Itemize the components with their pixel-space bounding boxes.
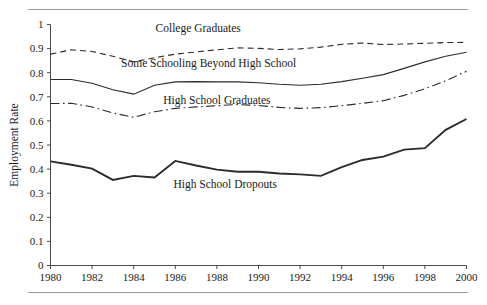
x-tick-label: 1982 [81, 271, 103, 283]
series-label-high-school-dropouts: High School Dropouts [173, 178, 277, 191]
y-tick-label: 0.2 [30, 211, 44, 223]
y-tick-label: 0 [38, 259, 44, 271]
series-label-college-graduates: College Graduates [156, 22, 242, 35]
y-tick-label: 0.5 [30, 139, 44, 151]
x-tick-label: 1996 [372, 271, 395, 283]
x-tick-label: 2000 [456, 271, 479, 283]
y-tick-label: 0.1 [30, 235, 44, 247]
y-axis: 00.10.20.30.40.50.60.70.80.91 [30, 18, 51, 271]
x-tick-label: 1992 [289, 271, 311, 283]
x-tick-label: 1980 [40, 271, 63, 283]
x-tick-label: 1990 [248, 271, 271, 283]
y-tick-label: 0.4 [30, 163, 44, 175]
y-tick-label: 0.8 [30, 67, 44, 79]
x-tick-label: 1988 [206, 271, 229, 283]
y-tick-label: 0.7 [30, 91, 44, 103]
series-label-some-schooling-beyond-high-school: Some Schooling Beyond High School [121, 57, 296, 70]
x-tick-label: 1994 [331, 271, 354, 283]
y-axis-title: Employment Rate [8, 103, 21, 186]
y-axis-title-text: Employment Rate [8, 103, 21, 186]
x-tick-label: 1984 [123, 271, 146, 283]
figure-container: 00.10.20.30.40.50.60.70.80.91 1980198219… [0, 0, 487, 305]
series-label-high-school-graduates: High School Graduates [163, 94, 271, 107]
y-tick-label: 1 [38, 18, 44, 30]
y-tick-label: 0.9 [30, 42, 44, 54]
y-tick-label: 0.6 [30, 115, 44, 127]
series-line-high-school-dropouts [51, 119, 467, 180]
line-chart: 00.10.20.30.40.50.60.70.80.91 1980198219… [0, 0, 487, 305]
y-tick-label: 0.3 [30, 187, 44, 199]
x-tick-label: 1986 [164, 271, 187, 283]
x-axis: 1980198219841986198819901992199419961998… [40, 266, 479, 284]
x-tick-label: 1998 [414, 271, 437, 283]
